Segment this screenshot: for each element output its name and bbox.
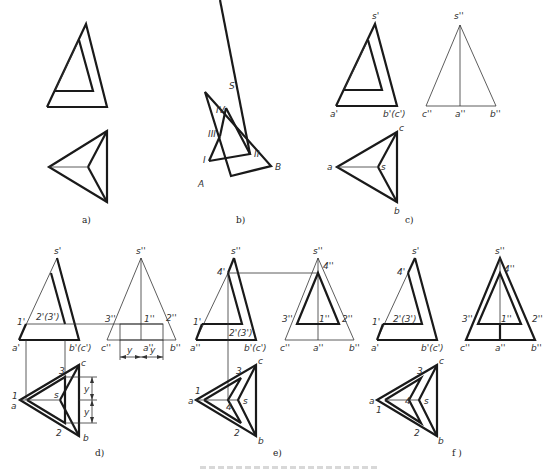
label-2-double-prime: 2'' — [342, 314, 353, 324]
label-c-double-prime: c'' — [460, 343, 470, 353]
label-2: 2 — [234, 428, 240, 438]
label-a-prime: a' — [371, 343, 379, 353]
panel-d-caption: d) — [95, 448, 104, 458]
label-b-double-prime: b'' — [531, 343, 542, 353]
point-II-label: II — [254, 149, 260, 159]
label-s-double-prime: s'' — [495, 246, 505, 256]
label-a-double-prime: a'' — [495, 343, 505, 353]
front-view-f — [377, 258, 437, 340]
panel-b-caption: b) — [236, 215, 245, 225]
label-2-double-prime: 2'' — [166, 313, 177, 323]
label-c-double-prime: c'' — [280, 343, 290, 353]
label-2-double-prime: 2'' — [532, 314, 543, 324]
point-III-label: III — [208, 129, 216, 139]
label-c-double-prime: c'' — [101, 343, 111, 353]
label-b: b — [258, 436, 264, 446]
label-s-double-prime: s'' — [136, 246, 146, 256]
label-s-double-prime: s'' — [313, 246, 323, 256]
label-b-prime-c-prime: b'(c') — [244, 343, 267, 353]
top-view-c — [337, 132, 397, 202]
label-s: s — [243, 396, 248, 406]
point-IV-label: IV — [216, 105, 226, 115]
label-4: 4 — [226, 402, 232, 412]
label-a-prime: a' — [12, 343, 20, 353]
label-2: 2 — [414, 428, 420, 438]
label-b: b — [394, 206, 400, 216]
label-s: s — [381, 162, 386, 172]
label-1: 1 — [195, 386, 201, 396]
label-s-prime: s' — [54, 246, 61, 256]
label-4: 4 — [405, 396, 411, 406]
point-B-label: B — [275, 162, 281, 172]
label-3-double-prime: 3'' — [105, 314, 116, 324]
label-4-double-prime: 4'' — [504, 264, 515, 274]
label-1-prime: 1' — [193, 317, 201, 327]
label-c: c — [81, 358, 86, 368]
side-view-d — [107, 258, 176, 360]
label-a-double-prime-front: a'' — [190, 343, 200, 353]
label-b-double-prime: b'' — [490, 109, 501, 119]
label-a-double-prime: a'' — [455, 109, 465, 119]
dimension-y-upper: y — [83, 384, 90, 394]
label-c: c — [258, 356, 263, 366]
label-a-double-prime: a'' — [313, 343, 323, 353]
label-c: c — [439, 356, 444, 366]
label-b: b — [83, 433, 89, 443]
top-view-a — [49, 131, 107, 202]
label-c: c — [399, 123, 404, 133]
label-1: 1 — [12, 391, 18, 401]
side-view-e — [285, 258, 354, 340]
label-a-prime: a' — [330, 109, 338, 119]
label-a: a — [327, 162, 333, 172]
panel-e: s'' 4' 1' 2'(3') a'' b'(c') s'' 4'' 3'' … — [188, 246, 360, 458]
label-c-double-prime: c'' — [422, 109, 432, 119]
panel-e-caption: e) — [273, 448, 282, 458]
panel-d: s' 1' 2'(3') a' b'(c') s'' 3'' 1'' 2'' c… — [11, 246, 181, 458]
label-a: a — [11, 401, 17, 411]
side-view-c — [426, 25, 496, 106]
label-3: 3 — [417, 366, 423, 376]
label-1: 1 — [376, 405, 382, 415]
label-4-prime: 4' — [217, 267, 225, 277]
label-2-prime-3-prime: 2'(3') — [36, 312, 59, 322]
front-view-c — [336, 24, 397, 106]
label-s-double-prime: s'' — [454, 11, 464, 21]
label-1-prime: 1' — [372, 317, 380, 327]
label-2-prime-3-prime: 2'(3') — [229, 328, 252, 338]
panel-a-caption: a) — [82, 215, 91, 225]
label-a: a — [188, 396, 194, 406]
label-b: b — [438, 436, 444, 446]
label-3-double-prime: 3'' — [282, 314, 293, 324]
label-b-prime-c-prime: b'(c') — [421, 343, 444, 353]
panel-c: s' a' b'(c') s'' c'' a'' b'' a s c b c) — [327, 11, 501, 225]
label-s: s — [424, 396, 429, 406]
panel-c-caption: c) — [405, 215, 414, 225]
label-4-double-prime: 4'' — [323, 261, 334, 271]
panel-a: a) — [47, 24, 107, 225]
point-S-label: S — [229, 81, 235, 91]
label-3-double-prime: 3'' — [462, 314, 473, 324]
label-b-prime-c-prime: b'(c') — [69, 343, 92, 353]
label-b-double-prime: b'' — [170, 343, 181, 353]
label-1-prime: 1' — [17, 317, 25, 327]
dimension-y-lower: y — [83, 407, 90, 417]
label-1-double-prime: 1'' — [319, 314, 330, 324]
projection-drawing: a) S IV III I II A B b) s' a' b'(c') — [0, 0, 556, 473]
label-2: 2 — [56, 428, 62, 438]
label-1-double-prime: 1'' — [501, 314, 512, 324]
axonometric-view — [205, 0, 271, 176]
label-1-double-prime: 1'' — [144, 314, 155, 324]
label-3: 3 — [236, 366, 242, 376]
label-b-prime-c-prime: b'(c') — [383, 109, 406, 119]
front-view-a — [47, 24, 107, 107]
label-a: a — [369, 396, 375, 406]
label-s-prime: s' — [372, 11, 379, 21]
figure-caption — [200, 466, 380, 469]
point-A-label: A — [197, 179, 204, 189]
dimension-y-left: y — [126, 345, 133, 355]
panel-b: S IV III I II A B b) — [197, 0, 281, 225]
side-view-f — [466, 258, 535, 340]
panel-f-caption: f ) — [452, 448, 462, 458]
dimension-y-right: y — [149, 345, 156, 355]
label-b-double-prime: b'' — [349, 343, 360, 353]
